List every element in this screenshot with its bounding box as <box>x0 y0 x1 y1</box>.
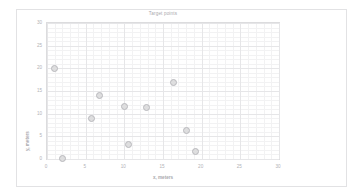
scatter-chart: Target points 051015202530 051015202530 … <box>0 0 364 196</box>
data-point-marker <box>192 148 199 155</box>
gridline-horizontal <box>47 91 279 92</box>
y-axis-title: y, meters <box>25 131 30 151</box>
x-axis-tick-label: 10 <box>121 164 126 169</box>
gridline-horizontal <box>47 159 279 160</box>
gridline-horizontal <box>47 46 279 47</box>
gridline-horizontal <box>47 114 279 115</box>
y-axis-tick-label: 5 <box>6 133 42 138</box>
x-axis-tick-label: 5 <box>83 164 86 169</box>
x-axis-tick-label: 15 <box>159 164 164 169</box>
data-point-marker <box>51 65 58 72</box>
gridline-vertical <box>279 23 280 159</box>
y-axis-tick-label: 15 <box>6 88 42 93</box>
data-point-marker <box>183 127 190 134</box>
data-point-marker <box>59 155 66 162</box>
data-point-marker <box>125 141 132 148</box>
gridline-horizontal <box>47 68 279 69</box>
x-axis-tick-label: 25 <box>237 164 242 169</box>
x-axis-tick-label: 20 <box>198 164 203 169</box>
data-point-marker <box>170 79 177 86</box>
x-axis-title: x, meters <box>46 175 280 180</box>
x-axis-tick-label: 30 <box>275 164 280 169</box>
y-axis-tick-label: 0 <box>6 156 42 161</box>
x-axis-tick-label: 0 <box>45 164 48 169</box>
chart-title: Target points <box>46 11 280 16</box>
y-axis-tick-label: 30 <box>6 20 42 25</box>
y-axis-tick-label: 25 <box>6 42 42 47</box>
gridline-horizontal <box>47 23 279 24</box>
y-axis-title-wrapper: y, meters <box>26 60 36 120</box>
y-axis-tick-label: 10 <box>6 110 42 115</box>
x-axis-tick-labels: 051015202530 <box>46 164 280 174</box>
gridline-horizontal <box>47 136 279 137</box>
y-axis-tick-label: 20 <box>6 65 42 70</box>
plot-area <box>46 22 280 160</box>
